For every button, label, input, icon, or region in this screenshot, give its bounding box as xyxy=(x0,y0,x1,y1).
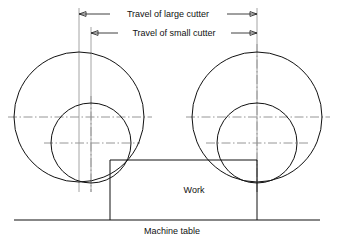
drawing-canvas: Travel of large cutter Travel of small c… xyxy=(0,0,339,238)
cutter-group xyxy=(14,52,322,183)
work-label: Work xyxy=(184,185,205,195)
dimension-label-small: Travel of small cutter xyxy=(132,28,215,38)
dimension-travel-large: Travel of large cutter xyxy=(79,9,257,19)
centerline-group xyxy=(8,44,330,192)
dimension-travel-small: Travel of small cutter xyxy=(91,28,257,38)
machine-table-label: Machine table xyxy=(144,226,200,236)
dimension-label-large: Travel of large cutter xyxy=(127,9,209,19)
technical-drawing: Travel of large cutter Travel of small c… xyxy=(0,0,339,238)
